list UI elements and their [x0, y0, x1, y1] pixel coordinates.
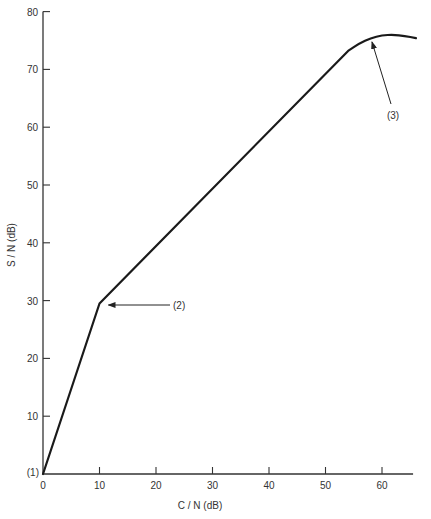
x-tick-label: 10 — [94, 480, 106, 491]
annotation-3-arrow — [372, 42, 391, 104]
y-tick-label: 60 — [27, 122, 39, 133]
y-tick-label: 10 — [27, 411, 39, 422]
annotation-1-label: (1) — [27, 467, 39, 478]
x-tick-label: 30 — [207, 480, 219, 491]
x-tick-label: 0 — [40, 480, 46, 491]
annotation-3-label: (3) — [387, 110, 399, 121]
tick-labels: 01020304050601020304050607080 — [27, 7, 388, 491]
x-tick-label: 20 — [150, 480, 162, 491]
y-tick-label: 30 — [27, 296, 39, 307]
y-tick-label: 50 — [27, 180, 39, 191]
y-axis-label: S / N (dB) — [6, 223, 17, 267]
y-tick-label: 40 — [27, 238, 39, 249]
annotation-2-label: (2) — [173, 300, 185, 311]
sn-vs-cn-chart: 01020304050601020304050607080 (1)(2)(3) … — [0, 0, 431, 519]
tick-marks — [43, 12, 382, 474]
x-tick-label: 50 — [320, 480, 332, 491]
y-tick-label: 20 — [27, 353, 39, 364]
y-tick-label: 80 — [27, 7, 39, 18]
y-tick-label: 70 — [27, 64, 39, 75]
x-tick-label: 60 — [376, 480, 388, 491]
axes — [43, 12, 413, 474]
data-line — [43, 35, 416, 474]
x-tick-label: 40 — [263, 480, 275, 491]
x-axis-label: C / N (dB) — [178, 500, 222, 511]
annotations: (1)(2)(3) — [27, 42, 399, 478]
